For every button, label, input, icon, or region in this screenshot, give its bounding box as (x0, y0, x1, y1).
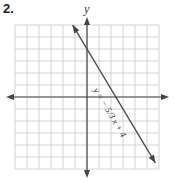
y-axis-label: y (83, 2, 90, 16)
graph-line (73, 25, 156, 163)
coordinate-plane: y y = − 5/3 x + 4 (0, 0, 174, 182)
